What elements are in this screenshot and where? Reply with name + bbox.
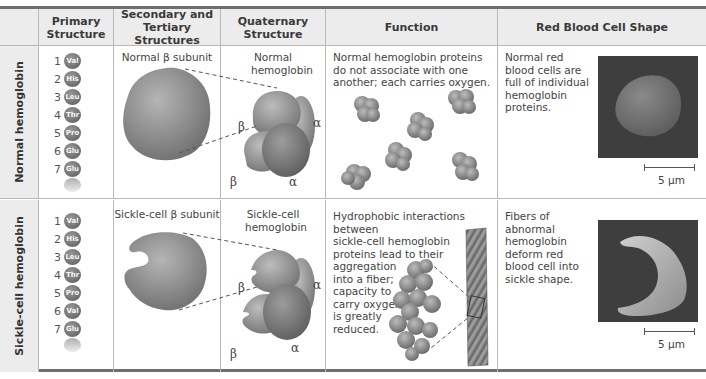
residue: 1Val: [51, 52, 81, 70]
residue-bead: His: [64, 231, 81, 247]
residue-number: 1: [51, 215, 61, 228]
chain-continuation-icon: [64, 178, 81, 192]
row-label-cell: Sickle-cell hemoglobin: [0, 200, 38, 372]
scale-label: 5 µm: [658, 174, 685, 186]
residue: 4Thr: [51, 106, 81, 124]
table-header: Primary Structure Secondary and Tertiary…: [0, 9, 706, 46]
dashed-connector-lines: [165, 46, 285, 199]
alpha-label: α: [313, 278, 321, 292]
residue-number: 5: [51, 287, 61, 300]
hemoglobin-fiber-icon: [326, 200, 498, 372]
residue-number: 2: [51, 233, 61, 246]
residue-bead: Glu: [64, 143, 81, 159]
normal-rbc-micrograph: [598, 56, 698, 158]
sickle-rbc-micrograph: [598, 220, 698, 322]
residue-number: 6: [51, 305, 61, 318]
sickle-red-blood-cell-icon: [598, 220, 698, 322]
header-rbc-shape: Red Blood Cell Shape: [497, 9, 706, 46]
residue: 6Glu: [51, 142, 81, 160]
row-label-cell: Normal hemoglobin: [0, 46, 38, 198]
residue: 3Leu: [51, 248, 81, 266]
residue-bead: Glu: [64, 321, 81, 337]
function-cell: Hydrophobic interactions between sickle-…: [325, 200, 497, 372]
individual-hemoglobin-molecules-icon: [326, 46, 498, 199]
primary-structure-cell: 1Val 2His 3Leu 4Thr 5Pro 6Val 7Glu: [38, 200, 113, 372]
residue-number: 7: [51, 163, 61, 176]
header-primary-structure: Primary Structure: [38, 9, 113, 46]
alpha-label: α: [289, 175, 297, 189]
hemoglobin-comparison-table: Primary Structure Secondary and Tertiary…: [0, 6, 706, 372]
residue-number: 5: [51, 127, 61, 140]
row-label: Sickle-cell hemoglobin: [13, 216, 26, 356]
residue-number: 4: [51, 269, 61, 282]
residue: 7Glu: [51, 320, 81, 338]
residue-bead: Leu: [64, 249, 81, 265]
residue-bead: His: [64, 71, 81, 87]
residue-number: 4: [51, 109, 61, 122]
residue-bead: Pro: [64, 125, 81, 141]
scale-label: 5 µm: [658, 338, 685, 350]
header-quaternary: Quaternary Structure: [220, 9, 325, 46]
residue-bead: Val: [64, 53, 81, 69]
residue: 5Pro: [51, 124, 81, 142]
residue-number: 1: [51, 55, 61, 68]
residue-bead: Val: [64, 213, 81, 229]
residue: 4Thr: [51, 266, 81, 284]
residue: 2His: [51, 70, 81, 88]
residue-number: 7: [51, 323, 61, 336]
residue-number: 3: [51, 251, 61, 264]
residue: 1Val: [51, 212, 81, 230]
rbc-shape-cell: Fibers of abnormal hemoglobin deform red…: [497, 200, 706, 372]
rbc-shape-cell: Normal red blood cells are full of indiv…: [497, 46, 706, 198]
residue-mutated: 6Val: [51, 302, 81, 320]
residue-bead: Pro: [64, 285, 81, 301]
row-label: Normal hemoglobin: [13, 61, 26, 183]
normal-red-blood-cell-icon: [598, 56, 698, 158]
header-secondary-tertiary: Secondary and Tertiary Structures: [113, 9, 220, 46]
residue-bead: Leu: [64, 89, 81, 105]
alpha-label: α: [313, 116, 321, 130]
residue: 7Glu: [51, 160, 81, 178]
row-sickle-cell-hemoglobin: Sickle-cell hemoglobin 1Val 2His 3Leu 4T…: [0, 200, 706, 372]
residue-bead: Thr: [64, 267, 81, 283]
residue: 2His: [51, 230, 81, 248]
alpha-label: α: [291, 341, 299, 355]
scale-bar: [644, 164, 695, 171]
scale-bar: [644, 328, 695, 335]
residue-bead: Glu: [64, 161, 81, 177]
amino-acid-chain: 1Val 2His 3Leu 4Thr 5Pro 6Glu 7Glu: [51, 52, 81, 192]
dashed-connector-lines: [165, 200, 285, 372]
chain-continuation-icon: [64, 338, 81, 352]
header-row-label: [0, 9, 38, 46]
residue-number: 6: [51, 145, 61, 158]
rbc-description: Normal red blood cells are full of indiv…: [505, 51, 595, 114]
row-normal-hemoglobin: Normal hemoglobin 1Val 2His 3Leu 4Thr 5P…: [0, 46, 706, 199]
residue-number: 2: [51, 73, 61, 86]
residue-bead: Val: [64, 303, 81, 319]
function-cell: Normal hemoglobin proteins do not associ…: [325, 46, 497, 198]
rbc-description: Fibers of abnormal hemoglobin deform red…: [505, 210, 585, 285]
amino-acid-chain: 1Val 2His 3Leu 4Thr 5Pro 6Val 7Glu: [51, 212, 81, 352]
residue-number: 3: [51, 91, 61, 104]
primary-structure-cell: 1Val 2His 3Leu 4Thr 5Pro 6Glu 7Glu: [38, 46, 113, 198]
header-function: Function: [325, 9, 497, 46]
residue-bead: Thr: [64, 107, 81, 123]
residue: 3Leu: [51, 88, 81, 106]
residue: 5Pro: [51, 284, 81, 302]
